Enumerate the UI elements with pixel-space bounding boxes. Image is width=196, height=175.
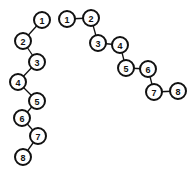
node-3: 3 — [29, 54, 45, 70]
node-1: 1 — [59, 11, 75, 27]
node-4: 4 — [112, 37, 128, 53]
node-8: 8 — [15, 149, 31, 165]
node-label: 1 — [39, 16, 44, 26]
chain-diagram: 1234567812345678 — [0, 0, 196, 175]
node-label: 7 — [151, 88, 156, 98]
node-4: 4 — [10, 74, 26, 90]
node-label: 3 — [95, 39, 100, 49]
node-5: 5 — [29, 93, 45, 109]
node-label: 6 — [145, 65, 150, 75]
node-label: 5 — [123, 64, 128, 74]
node-7: 7 — [146, 84, 162, 100]
node-5: 5 — [118, 60, 134, 76]
node-label: 1 — [64, 15, 69, 25]
node-2: 2 — [15, 33, 31, 49]
node-label: 3 — [34, 58, 39, 68]
node-label: 7 — [35, 132, 40, 142]
node-6: 6 — [140, 61, 156, 77]
node-label: 4 — [15, 78, 20, 88]
node-2: 2 — [83, 10, 99, 26]
right-chain: 12345678 — [59, 10, 186, 100]
node-3: 3 — [90, 35, 106, 51]
node-8: 8 — [170, 83, 186, 99]
left-chain: 12345678 — [10, 12, 50, 165]
node-label: 8 — [20, 153, 25, 163]
node-label: 8 — [175, 87, 180, 97]
node-label: 4 — [117, 41, 122, 51]
node-6: 6 — [14, 110, 30, 126]
node-label: 5 — [34, 97, 39, 107]
node-label: 2 — [20, 37, 25, 47]
node-label: 2 — [88, 14, 93, 24]
node-label: 6 — [19, 114, 24, 124]
node-1: 1 — [34, 12, 50, 28]
node-7: 7 — [30, 128, 46, 144]
